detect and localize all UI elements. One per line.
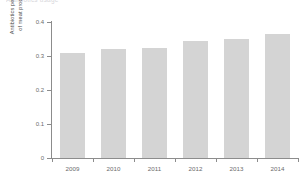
x-axis-tick: [52, 158, 53, 162]
chart-screenshot: Antibiotics usage Antibiotics per 1,000 …: [0, 0, 308, 184]
x-axis-tick: [93, 158, 94, 162]
x-axis-tick: [216, 158, 217, 162]
x-axis-tick: [175, 158, 176, 162]
bar-chart: Antibiotics per 1,000 kg of meat produce…: [0, 0, 308, 184]
x-axis-tick-label: 2012: [176, 166, 216, 172]
x-axis-tick: [298, 158, 299, 162]
x-axis-tick-label: 2010: [94, 166, 134, 172]
y-axis-label: Antibiotics per 1,000 kg of meat produce…: [9, 0, 31, 58]
bar: [101, 49, 126, 158]
y-axis-tick: [47, 56, 51, 57]
x-axis-tick: [134, 158, 135, 162]
y-axis-tick-label: 0: [4, 155, 44, 161]
x-axis-tick-label: 2014: [258, 166, 298, 172]
y-axis-tick: [47, 22, 51, 23]
y-axis-tick-label: 0.3: [4, 53, 44, 59]
bar: [142, 48, 167, 159]
y-axis-tick-label: 0.4: [4, 19, 44, 25]
y-axis-label-line-2: of meat produce (kg): [17, 0, 25, 58]
x-axis-tick: [257, 158, 258, 162]
bar: [183, 41, 208, 158]
bar: [265, 34, 290, 158]
x-axis-tick-label: 2009: [53, 166, 93, 172]
y-axis-tick: [47, 90, 51, 91]
plot-area: [52, 22, 298, 158]
bar: [224, 39, 249, 158]
y-axis-tick-label: 0.1: [4, 121, 44, 127]
y-axis-label-line-1: Antibiotics per 1,000 kg: [9, 0, 17, 58]
y-axis-tick: [47, 124, 51, 125]
y-axis-tick-label: 0.2: [4, 87, 44, 93]
x-axis-tick-label: 2013: [217, 166, 257, 172]
x-axis-tick-label: 2011: [135, 166, 175, 172]
bar: [60, 53, 85, 158]
y-axis-tick: [47, 158, 51, 159]
